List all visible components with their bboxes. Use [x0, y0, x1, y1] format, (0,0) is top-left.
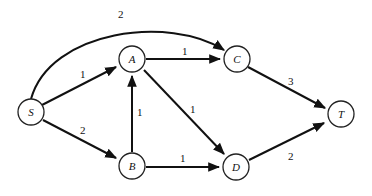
node-a: A: [119, 46, 145, 72]
weight-b-d: 1: [180, 152, 186, 164]
node-b: B: [119, 153, 145, 179]
weight-a-d: 1: [190, 103, 196, 115]
svg-text:A: A: [128, 53, 136, 65]
weight-s-c: 2: [118, 8, 124, 20]
edge-c-t: [248, 67, 325, 108]
svg-text:D: D: [231, 161, 240, 173]
svg-text:B: B: [129, 160, 136, 172]
weight-d-t: 2: [288, 150, 294, 162]
node-d: D: [223, 154, 249, 180]
edge-s-a: [42, 67, 116, 105]
svg-text:S: S: [28, 106, 34, 118]
weight-s-b: 2: [80, 124, 86, 136]
node-t: T: [328, 101, 354, 127]
weight-c-t: 3: [288, 75, 294, 87]
edge-a-d: [144, 70, 224, 154]
edge-d-t: [249, 123, 324, 160]
flow-network-diagram: 2 1 2 1 1 1 1 3 2 S A C T B D: [0, 0, 372, 196]
weight-a-c: 1: [182, 45, 188, 57]
node-c: C: [224, 46, 250, 72]
node-s: S: [18, 99, 44, 125]
weight-b-a: 1: [137, 106, 143, 118]
svg-text:C: C: [233, 53, 241, 65]
weight-s-a: 1: [80, 68, 86, 80]
svg-text:T: T: [338, 108, 345, 120]
